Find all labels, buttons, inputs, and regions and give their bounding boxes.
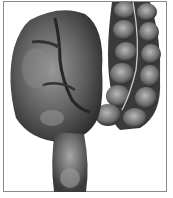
rectum — [52, 132, 87, 192]
volvulus-loop — [10, 10, 102, 142]
colon-illustration — [0, 0, 173, 198]
descending-colon — [95, 1, 161, 130]
